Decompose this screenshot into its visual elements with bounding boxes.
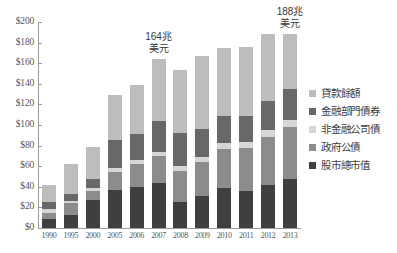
bar-segment — [239, 116, 253, 142]
bar-group — [152, 59, 166, 228]
y-axis-tick-label: $60 — [0, 161, 34, 171]
bar-segment — [283, 127, 297, 179]
bar-segment — [195, 129, 209, 157]
chart-legend: 貸款餘額金融部門債券非金融公司債政府公債股市總市值 — [309, 84, 397, 174]
annotation-line-2: 美元 — [265, 18, 315, 30]
legend-item[interactable]: 非金融公司債 — [309, 120, 397, 138]
bar-segment — [152, 183, 166, 228]
bar-segment — [42, 219, 56, 228]
legend-swatch-icon — [309, 162, 316, 169]
bar-group — [283, 34, 297, 228]
bar-group — [42, 185, 56, 228]
bar-segment — [108, 95, 122, 140]
bar-group — [130, 85, 144, 228]
bar-segment — [64, 215, 78, 228]
bar-segment — [217, 149, 231, 188]
bar-segment — [152, 121, 166, 152]
bar-group — [239, 47, 253, 228]
x-axis-line — [38, 228, 301, 229]
legend-item[interactable]: 政府公債 — [309, 138, 397, 156]
legend-item[interactable]: 貸款餘額 — [309, 84, 397, 102]
bar-segment — [86, 179, 100, 188]
bar-segment — [239, 191, 253, 228]
bar-segment — [195, 56, 209, 129]
bar-segment — [42, 202, 56, 209]
legend-item-label: 股市總市值 — [321, 160, 370, 171]
bar-segment — [261, 34, 275, 101]
bar-segment — [64, 203, 78, 214]
bar-segment — [283, 89, 297, 120]
bar-segment — [173, 70, 187, 133]
bar-group — [108, 95, 122, 228]
bar-segment — [86, 191, 100, 200]
bar-segment — [130, 85, 144, 134]
y-axis-tick-label: $80 — [0, 141, 34, 151]
y-axis-tick-label: $40 — [0, 182, 34, 192]
legend-item-label: 金融部門債券 — [321, 106, 380, 117]
bar-segment — [152, 156, 166, 183]
bar-segment — [130, 187, 144, 228]
y-axis-tick-label: $160 — [0, 58, 34, 68]
bar-segment — [64, 194, 78, 201]
bar-value-annotation: 188兆美元 — [265, 6, 315, 29]
legend-item-label: 政府公債 — [321, 142, 360, 153]
bar-segment — [130, 164, 144, 187]
bar-segment — [108, 190, 122, 228]
bar-segment — [261, 185, 275, 228]
legend-swatch-icon — [309, 108, 316, 115]
bar-segment — [108, 172, 122, 190]
legend-swatch-icon — [309, 90, 316, 97]
bar-group — [173, 70, 187, 228]
y-axis-tick-label: $100 — [0, 120, 34, 130]
bar-segment — [173, 202, 187, 228]
legend-item[interactable]: 股市總市值 — [309, 156, 397, 174]
bar-segment — [283, 179, 297, 228]
bar-group — [261, 34, 275, 228]
bar-segment — [283, 34, 297, 89]
y-axis-tick-label: $120 — [0, 99, 34, 109]
legend-item-label: 非金融公司債 — [321, 124, 380, 135]
y-axis-tick-label: $200 — [0, 17, 34, 27]
bar-segment — [261, 130, 275, 137]
bar-segment — [239, 148, 253, 191]
legend-swatch-icon — [309, 144, 316, 151]
bar-segment — [261, 137, 275, 184]
bar-segment — [217, 116, 231, 143]
bar-segment — [195, 162, 209, 196]
bar-segment — [108, 140, 122, 168]
bar-segment — [217, 188, 231, 228]
bar-segment — [152, 59, 166, 121]
y-axis-tick-label: $180 — [0, 38, 34, 48]
bar-group — [86, 147, 100, 228]
bar-segment — [42, 185, 56, 203]
annotation-line-2: 美元 — [134, 43, 184, 55]
bar-segment — [130, 134, 144, 160]
bar-segment — [239, 47, 253, 116]
annotation-line-1: 188兆 — [265, 6, 315, 18]
bar-segment — [195, 196, 209, 228]
legend-swatch-icon — [309, 126, 316, 133]
annotation-line-1: 164兆 — [134, 31, 184, 43]
legend-item[interactable]: 金融部門債券 — [309, 102, 397, 120]
y-axis-tick-mark — [38, 228, 42, 229]
bar-segment — [283, 120, 297, 127]
bar-value-annotation: 164兆美元 — [134, 31, 184, 54]
bar-group — [217, 48, 231, 228]
bar-segment — [86, 147, 100, 179]
bar-segment — [86, 200, 100, 228]
y-axis-tick-label: $20 — [0, 202, 34, 212]
bar-group — [195, 56, 209, 228]
bar-segment — [261, 101, 275, 130]
bar-segment — [173, 171, 187, 202]
stacked-bar-chart: $200$180$160$140$120$100$80$60$40$20$0 1… — [0, 0, 397, 253]
x-axis-tick-label: 2013 — [273, 231, 307, 240]
y-axis-tick-label: $0 — [0, 223, 34, 233]
legend-item-label: 貸款餘額 — [321, 88, 360, 99]
bar-group — [64, 164, 78, 228]
bar-segment — [173, 133, 187, 166]
bar-segment — [64, 164, 78, 194]
y-axis-tick-label: $140 — [0, 79, 34, 89]
bar-segment — [217, 48, 231, 116]
